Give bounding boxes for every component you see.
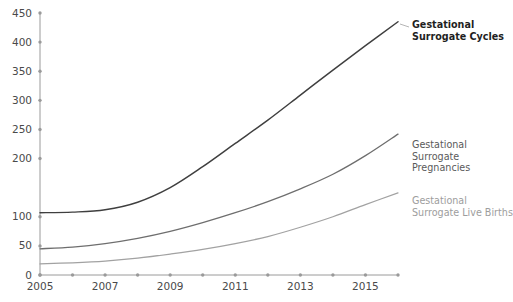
x-tick-dot [396,273,399,276]
y-axis: 050100200250300350400450 [12,7,42,281]
x-tick-dot [168,273,171,276]
x-tick-label: 2007 [92,280,119,292]
series-line-cycles [40,22,398,213]
x-tick-label: 2011 [222,280,249,292]
x-tick-dot [136,273,139,276]
y-tick-dot [38,70,41,73]
x-axis: 200520072009201120132015 [27,273,400,292]
x-tick-label: 2009 [157,280,184,292]
x-axis-ticks: 200520072009201120132015 [27,273,400,292]
series-line-pregnancies [40,134,398,249]
x-tick-dot [364,273,367,276]
x-tick-dot [201,273,204,276]
leader-line-cycles [400,24,409,27]
y-axis-ticks: 050100200250300350400450 [12,7,42,281]
y-tick-label: 200 [12,152,32,164]
series-line-births [40,193,398,264]
series-label-births: Gestational Surrogate Live Births [412,195,513,218]
data-series-group [40,22,398,264]
y-tick-label: 50 [19,239,32,251]
y-tick-dot [38,40,41,43]
y-tick-label: 350 [12,65,32,77]
y-tick-dot [38,215,41,218]
x-tick-dot [266,273,269,276]
y-tick-label: 450 [12,7,32,19]
y-tick-label: 300 [12,94,32,106]
y-tick-label: 0 [25,269,32,281]
y-tick-dot [38,244,41,247]
series-label-cycles: Gestational Surrogate Cycles [412,19,504,42]
x-tick-label: 2013 [287,280,314,292]
y-tick-label: 250 [12,123,32,135]
y-tick-label: 400 [12,36,32,48]
chart-container: 050100200250300350400450 200520072009201… [0,0,513,302]
x-tick-dot [103,273,106,276]
x-tick-dot [331,273,334,276]
x-tick-label: 2005 [27,280,54,292]
x-tick-label: 2015 [352,280,379,292]
x-tick-dot [71,273,74,276]
x-tick-dot [299,273,302,276]
series-label-pregnancies: Gestational Surrogate Pregnancies [412,139,513,174]
y-tick-label: 100 [12,210,32,222]
y-tick-dot [38,128,41,131]
y-tick-dot [38,157,41,160]
y-tick-dot [38,99,41,102]
x-tick-dot [38,273,41,276]
y-tick-dot [38,11,41,14]
x-tick-dot [234,273,237,276]
